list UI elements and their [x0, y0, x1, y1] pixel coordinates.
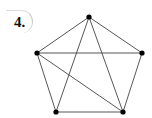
graph-edge	[56, 17, 89, 112]
graph-diagram	[0, 0, 152, 118]
graph-vertex-top	[86, 14, 91, 19]
graph-vertex-left	[34, 50, 39, 55]
graph-edge	[89, 17, 123, 112]
graph-vertex-bottom-right	[120, 109, 125, 114]
graph-edge	[123, 53, 142, 112]
graph-vertex-bottom-left	[53, 109, 58, 114]
graph-edge	[37, 53, 56, 112]
graph-edge	[89, 17, 142, 53]
graph-vertex-right	[139, 50, 144, 55]
graph-edge	[37, 17, 89, 53]
graph-edge	[37, 53, 123, 112]
